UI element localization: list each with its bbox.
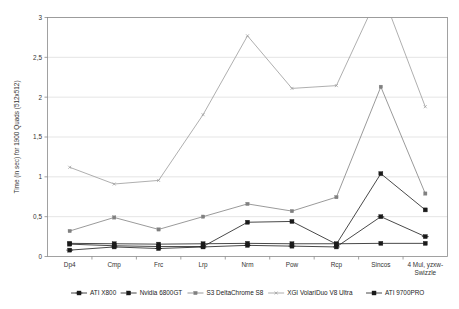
y-tick-label: 2,5 [33, 54, 42, 61]
gridlines [48, 18, 448, 217]
x-tick-label: Rcp [331, 261, 343, 269]
data-point-marker [201, 215, 204, 218]
data-point-marker [379, 172, 383, 176]
data-point-marker [127, 291, 131, 295]
legend-label: ATI 9700PRO [385, 289, 424, 296]
y-axis-label: Time (in sec) for 1900 Quads (512x512) [13, 80, 21, 193]
data-point-marker [194, 291, 197, 294]
legend-label: ATI X800 [90, 289, 117, 296]
y-axis: 00,511,522,53 [33, 14, 47, 260]
legend-item-3[interactable]: XGI VolariDuo V8 Ultra [268, 289, 353, 296]
data-point-marker [246, 220, 250, 224]
x-tick-label: Lrp [198, 261, 208, 269]
x-tick-label: Sincos [371, 261, 390, 268]
legend-label: S3 DeltaChrome S8 [206, 289, 263, 296]
data-point-marker [379, 241, 383, 245]
legend-item-2[interactable]: S3 DeltaChrome S8 [187, 289, 263, 296]
y-tick-label: 1 [38, 173, 42, 180]
x-axis: Dp4CmpFrcLrpNrmPowRcpSincos4 Mul, yzxw-S… [64, 257, 443, 277]
series-line [70, 0, 426, 184]
data-point-marker [334, 242, 338, 246]
x-tick-label: 4 Mul, yzxw- [408, 261, 444, 269]
y-tick-label: 1,5 [33, 133, 42, 140]
series-group [66, 0, 428, 252]
series-line [70, 87, 426, 231]
data-point-marker [246, 241, 250, 245]
y-tick-label: 0,5 [33, 213, 42, 220]
x-tick-label: Nrm [241, 261, 253, 268]
series-line [70, 174, 426, 247]
x-tick-label: Frc [154, 261, 164, 268]
data-point-marker [379, 85, 382, 88]
y-tick-label: 3 [38, 14, 42, 21]
data-point-marker [424, 192, 427, 195]
data-point-marker [201, 245, 205, 249]
chart-container: 00,511,522,53Time (in sec) for 1900 Quad… [0, 0, 459, 309]
data-point-marker [112, 216, 115, 219]
series-1 [68, 241, 428, 246]
data-point-marker [290, 209, 293, 212]
chart-legend: ATI X800Nvidia 6800GTS3 DeltaChrome S8XG… [71, 289, 424, 296]
line-chart: 00,511,522,53Time (in sec) for 1900 Quad… [0, 0, 459, 309]
data-point-marker [68, 242, 72, 246]
legend-item-1[interactable]: Nvidia 6800GT [121, 289, 183, 296]
data-point-marker [372, 291, 376, 295]
data-point-marker [290, 219, 294, 223]
legend-label: XGI VolariDuo V8 Ultra [287, 289, 353, 296]
data-point-marker [246, 202, 249, 205]
data-point-marker [157, 245, 161, 249]
x-tick-label: Dp4 [64, 261, 76, 269]
series-3 [68, 0, 427, 186]
y-tick-label: 2 [38, 94, 42, 101]
legend-item-0[interactable]: ATI X800 [71, 289, 117, 296]
data-point-marker [112, 244, 116, 248]
y-tick-label: 0 [38, 253, 42, 260]
data-point-marker [157, 228, 160, 231]
x-tick-label-line2: Swizzle [414, 269, 436, 276]
data-point-marker [290, 242, 294, 246]
legend-label: Nvidia 6800GT [140, 289, 183, 296]
x-tick-label: Cmp [107, 261, 121, 269]
x-tick-label: Pow [286, 261, 299, 268]
data-point-marker [68, 229, 71, 232]
data-point-marker [335, 195, 338, 198]
data-point-marker [423, 208, 427, 212]
legend-item-4[interactable]: ATI 9700PRO [366, 289, 424, 296]
series-2 [68, 85, 427, 233]
data-point-marker [423, 241, 427, 245]
